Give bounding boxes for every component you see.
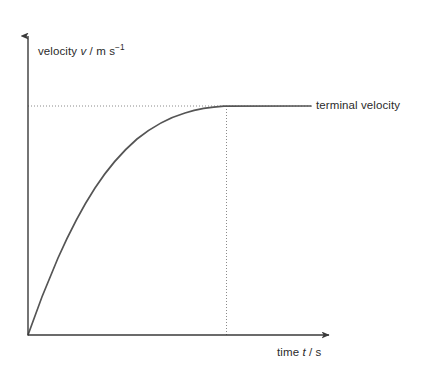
- x-axis-label-prefix: time: [277, 346, 302, 358]
- x-axis-unit: / s: [306, 346, 322, 358]
- x-axis-label: time t / s: [277, 346, 321, 358]
- y-axis-label-prefix: velocity: [38, 45, 80, 57]
- velocity-time-graph: velocity v / m s−1 time t / s terminal v…: [0, 0, 424, 376]
- velocity-curve: [28, 106, 311, 335]
- y-axis-unit: / m s: [86, 45, 115, 57]
- y-axis-label: velocity v / m s−1: [38, 45, 125, 57]
- terminal-velocity-annotation: terminal velocity: [316, 99, 400, 111]
- y-axis-unit-exponent: −1: [115, 43, 125, 52]
